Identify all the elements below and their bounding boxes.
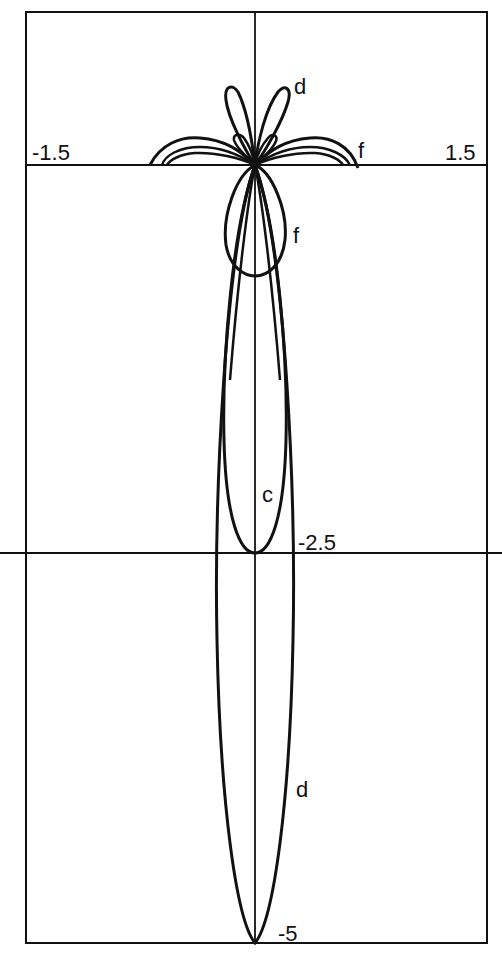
y-tick-label-minus-5: -5 bbox=[278, 921, 298, 946]
x-axis-max-label: 1.5 bbox=[445, 140, 476, 165]
curve-label-d-top: d bbox=[294, 74, 306, 99]
y-tick-label-minus-2.5: -2.5 bbox=[298, 530, 336, 555]
curve-label-f-side: f bbox=[358, 138, 365, 163]
curve-label-d-bottom: d bbox=[296, 777, 308, 802]
curve-label-f-lobe: f bbox=[293, 223, 300, 248]
lobe-plot: -1.5 1.5 -2.5 -5 d f f c d bbox=[0, 0, 502, 961]
curve-d-upper-right-lobe bbox=[255, 88, 289, 165]
curve-label-c: c bbox=[262, 482, 273, 507]
curve-f-left-side-lobe bbox=[150, 138, 255, 165]
curves bbox=[150, 87, 358, 943]
x-axis-min-label: -1.5 bbox=[32, 140, 70, 165]
